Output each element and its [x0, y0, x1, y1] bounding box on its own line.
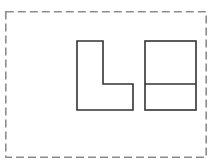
figure-canvas: Two-view orthographic line drawing Dashe… [0, 0, 214, 165]
shapes-svg [0, 0, 214, 165]
shapes-layer [0, 0, 214, 165]
l-shape [77, 41, 133, 110]
divided-rectangle [145, 41, 196, 110]
